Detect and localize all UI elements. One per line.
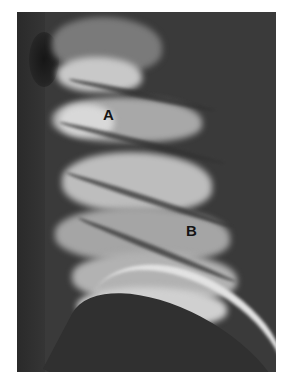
radiograph-image — [17, 12, 276, 372]
label-a: A — [103, 107, 114, 122]
mid-lung — [62, 152, 212, 212]
label-b: B — [186, 223, 197, 238]
